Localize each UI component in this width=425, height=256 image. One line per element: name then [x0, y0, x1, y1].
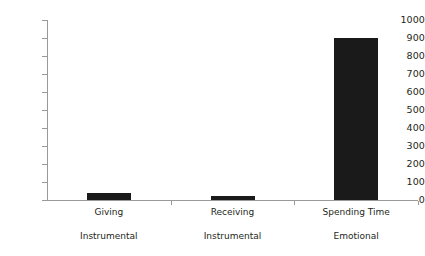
x-axis-group-label: Emotional: [294, 231, 418, 242]
y-axis-tick: [42, 110, 47, 111]
y-axis-tick-label: 900: [387, 33, 425, 43]
y-axis-tick: [42, 56, 47, 57]
x-axis-separator-tick: [171, 201, 172, 205]
y-axis-tick: [42, 20, 47, 21]
x-axis-category-label: Spending Time: [294, 207, 418, 218]
y-axis-tick: [42, 200, 47, 201]
x-axis-separator-tick: [294, 201, 295, 205]
y-axis-tick-label: 300: [387, 141, 425, 151]
x-axis-line: [47, 200, 418, 201]
y-axis-tick-label: 100: [387, 177, 425, 187]
y-axis-tick-label: 1000: [387, 15, 425, 25]
bar: [334, 38, 378, 200]
y-axis-tick-label: 700: [387, 69, 425, 79]
y-axis-tick: [42, 146, 47, 147]
y-axis-tick-label: 200: [387, 159, 425, 169]
x-axis-category-label: Receiving: [171, 207, 295, 218]
y-axis-tick-label: 500: [387, 105, 425, 115]
bar-chart: 01002003004005006007008009001000 GivingR…: [0, 0, 425, 256]
y-axis-tick: [42, 92, 47, 93]
x-axis-separator-tick: [418, 201, 419, 205]
x-axis-group-label: Instrumental: [47, 231, 171, 242]
y-axis-tick-label: 0: [387, 195, 425, 205]
y-axis-tick: [42, 164, 47, 165]
y-axis-tick: [42, 74, 47, 75]
y-axis-tick: [42, 128, 47, 129]
bar: [87, 193, 131, 200]
y-axis-tick-label: 800: [387, 51, 425, 61]
y-axis-tick-label: 600: [387, 87, 425, 97]
bar: [211, 196, 255, 200]
y-axis-tick-label: 400: [387, 123, 425, 133]
y-axis-tick: [42, 182, 47, 183]
y-axis-line: [47, 20, 48, 201]
y-axis-tick: [42, 38, 47, 39]
x-axis-group-label: Instrumental: [171, 231, 295, 242]
x-axis-category-label: Giving: [47, 207, 171, 218]
